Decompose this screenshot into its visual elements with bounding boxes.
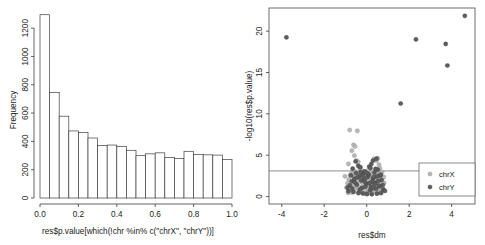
scatter-point-chrY: [354, 171, 358, 175]
histogram-bar: [146, 154, 156, 198]
scatter-point-chrY: [372, 175, 376, 179]
histogram-bar: [98, 146, 108, 198]
scatter-point-chrY: [381, 183, 385, 187]
scatter-point-chrY: [363, 180, 367, 184]
scatter-point-chrY: [359, 170, 363, 174]
scatter-point-chrY: [368, 166, 372, 170]
scatter-point-chrX: [352, 154, 356, 158]
scatter-point-chrY: [414, 37, 418, 41]
scatter-point-chrY: [383, 189, 387, 193]
scatter-point-chrX: [355, 129, 359, 133]
histogram-bar: [174, 158, 184, 198]
scatter-point-chrY: [349, 173, 353, 177]
x-axis-tick-label: 0.2: [73, 210, 85, 219]
scatter-point-chrY: [463, 14, 467, 18]
figure-container: 0200400600800100012000.00.20.40.60.81.0 …: [0, 0, 485, 245]
y-axis-tick-label: 0: [255, 194, 264, 199]
histogram-bar: [78, 133, 88, 198]
x-axis-tick-label: 0.8: [188, 210, 200, 219]
scatter-point-chrY: [351, 167, 355, 171]
scatter-point-chrY: [345, 186, 349, 190]
histogram-plot: 0200400600800100012000.00.20.40.60.81.0 …: [0, 0, 243, 245]
volcano-plot: 05101520-4-2024 -log10(res$p.value) res$…: [243, 0, 485, 245]
histogram-bar: [222, 160, 232, 198]
scatter-point-chrY: [370, 192, 374, 196]
x-axis-tick-label: 0.0: [34, 210, 46, 219]
volcano-x-axis-label: res$dm: [358, 231, 385, 240]
scatter-point-chrY: [364, 171, 368, 175]
x-axis-tick-label: -4: [278, 210, 286, 219]
scatter-point-chrY: [444, 42, 448, 46]
scatter-point-chrY: [399, 101, 403, 105]
scatter-point-chrX: [346, 162, 350, 166]
scatter-point-chrY: [351, 190, 355, 194]
y-axis-tick-label: 0: [21, 195, 30, 200]
scatter-point-chrY: [377, 184, 381, 188]
histogram-bar: [88, 138, 98, 198]
scatter-point-chrX: [343, 174, 347, 178]
histogram-bar: [126, 150, 136, 198]
scatter-point-chrY: [445, 63, 449, 67]
y-axis-tick-label: 15: [255, 68, 264, 78]
volcano-legend: chrX chrY: [419, 163, 475, 196]
y-axis-tick-label: 600: [21, 106, 30, 120]
y-axis-tick-label: 200: [21, 162, 30, 176]
scatter-point-chrY: [369, 162, 373, 166]
x-axis-tick-label: -2: [321, 210, 329, 219]
scatter-point-chrY: [371, 186, 375, 190]
x-axis-tick-label: 0: [364, 210, 369, 219]
histogram-x-axis-label: res$p.value[which(!chr %in% c("chrX", "c…: [42, 227, 214, 236]
y-axis-tick-label: 1200: [21, 19, 30, 38]
scatter-point-chrY: [357, 191, 361, 195]
y-axis-tick-label: 800: [21, 77, 30, 91]
histogram-bar: [155, 153, 165, 198]
histogram-bar: [136, 156, 146, 198]
scatter-point-chrY: [361, 191, 365, 195]
scatter-point-chrY: [355, 175, 359, 179]
histogram-bars: [40, 15, 232, 198]
y-axis-tick-label: 20: [255, 26, 264, 36]
scatter-point-chrY: [374, 157, 378, 161]
scatter-point-chrY: [375, 192, 379, 196]
legend-marker-chrY: [428, 185, 432, 189]
scatter-point-chrX: [350, 149, 354, 153]
x-axis-tick-label: 2: [407, 210, 412, 219]
legend-label-chrY: chrY: [439, 183, 455, 192]
histogram-bar: [107, 145, 117, 198]
histogram-bar: [40, 15, 50, 198]
scatter-point-chrX: [348, 128, 352, 132]
scatter-point-chrY: [379, 191, 383, 195]
x-axis-tick-label: 0.6: [150, 210, 162, 219]
legend-marker-chrX: [428, 172, 432, 176]
scatter-point-chrY: [358, 165, 362, 169]
y-axis-tick-label: 1000: [21, 47, 30, 66]
histogram-bar: [117, 146, 127, 198]
scatter-point-chrY: [368, 181, 372, 185]
histogram-bar: [69, 131, 79, 198]
scatter-point-chrX: [353, 144, 357, 148]
x-axis-tick-label: 4: [449, 210, 454, 219]
histogram-bar: [165, 157, 175, 198]
histogram-bar: [59, 116, 69, 198]
histogram-y-axis-label: Frequency: [9, 90, 18, 130]
volcano-panel: 05101520-4-2024 -log10(res$p.value) res$…: [243, 0, 485, 245]
volcano-y-axis-label: -log10(res$p.value): [245, 70, 254, 141]
legend-label-chrX: chrX: [439, 170, 455, 179]
x-axis-tick-label: 0.4: [111, 210, 123, 219]
histogram-bar: [213, 155, 223, 198]
scatter-point-chrY: [353, 180, 357, 184]
histogram-bar: [194, 155, 204, 198]
scatter-point-chrY: [376, 179, 380, 183]
histogram-bar: [203, 155, 213, 198]
histogram-bar: [184, 151, 194, 198]
scatter-point-chrY: [354, 159, 358, 163]
scatter-point-chrY: [365, 192, 369, 196]
y-axis-tick-label: 10: [255, 109, 264, 119]
y-axis-tick-label: 5: [255, 152, 264, 157]
x-axis-tick-label: 1.0: [226, 210, 238, 219]
scatter-point-chrY: [379, 173, 383, 177]
scatter-point-chrY: [284, 35, 288, 39]
scatter-point-chrY: [374, 167, 378, 171]
y-axis-tick-label: 400: [21, 134, 30, 148]
histogram-bar: [50, 93, 60, 198]
